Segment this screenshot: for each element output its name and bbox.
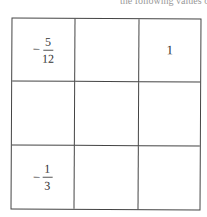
cell-r2-c1 [12, 82, 75, 146]
cell-r2-c3 [139, 82, 200, 146]
minus-sign: − [33, 42, 40, 58]
fraction: − 13 [33, 163, 52, 192]
denominator: 3 [44, 178, 50, 192]
cell-r3-c1: − 13 [12, 146, 75, 209]
fraction: − 512 [33, 35, 54, 64]
cell-r2-c2 [75, 82, 139, 146]
minus-sign: − [33, 169, 40, 185]
denominator: 12 [42, 50, 54, 64]
cell-r1-c1: − 512 [12, 19, 75, 82]
numerator: 1 [42, 163, 52, 178]
cut-off-header-text: the following values of the squ [120, 0, 207, 6]
numerator: 5 [43, 35, 53, 50]
cell-r3-c2 [75, 146, 139, 209]
cell-r1-c3: 1 [139, 19, 200, 82]
cell-r1-c2 [75, 19, 139, 82]
magic-square-grid: − 512 1 − 13 [10, 18, 201, 211]
cell-r3-c3 [139, 146, 200, 209]
